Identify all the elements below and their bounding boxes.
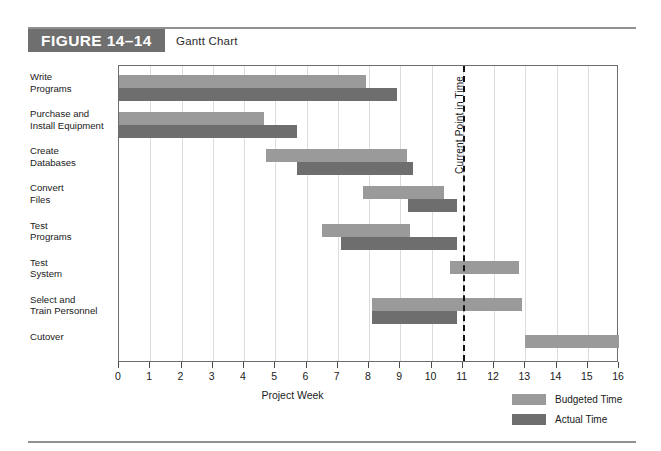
gantt-bar-actual: [297, 162, 413, 175]
x-tick-0: [118, 362, 119, 368]
x-tick-label-12: 12: [480, 370, 506, 382]
x-tick-label-3: 3: [199, 370, 225, 382]
gridline-week-3: [213, 66, 214, 361]
task-label-line: Cutover: [30, 331, 114, 343]
gantt-plot-area: Current Point in Time: [118, 65, 618, 362]
task-label-select-and-train-personnel: Select andTrain Personnel: [30, 294, 114, 317]
x-tick-label-13: 13: [511, 370, 537, 382]
task-label-line: Test: [30, 257, 114, 269]
task-label-create-databases: CreateDatabases: [30, 145, 114, 168]
task-label-line: Purchase and: [30, 108, 114, 120]
task-label-purchase-and-install-equipment: Purchase andInstall Equipment: [30, 108, 114, 131]
gantt-bar-actual: [372, 311, 456, 324]
task-label-line: Test: [30, 220, 114, 232]
task-label-cutover: Cutover: [30, 331, 114, 343]
gridline-week-12: [494, 66, 495, 361]
x-tick-16: [618, 362, 619, 368]
x-tick-14: [556, 362, 557, 368]
x-tick-label-0: 0: [105, 370, 131, 382]
x-tick-label-4: 4: [230, 370, 256, 382]
x-tick-label-10: 10: [418, 370, 444, 382]
gridline-week-6: [307, 66, 308, 361]
x-tick-label-7: 7: [324, 370, 350, 382]
task-label-line: Write: [30, 71, 114, 83]
task-label-line: Databases: [30, 157, 114, 169]
gantt-bar-budgeted: [363, 186, 444, 199]
figure-page: FIGURE 14–14 Gantt Chart Current Point i…: [0, 0, 661, 451]
gantt-bar-actual: [408, 199, 456, 212]
x-tick-4: [243, 362, 244, 368]
task-label-line: Train Personnel: [30, 305, 114, 317]
gridline-week-8: [369, 66, 370, 361]
current-point-in-time-label: Current Point in Time: [454, 76, 465, 174]
task-label-write-programs: WritePrograms: [30, 71, 114, 94]
legend-label-actual: Actual Time: [555, 414, 607, 425]
task-label-line: Select and: [30, 294, 114, 306]
x-tick-8: [368, 362, 369, 368]
x-tick-6: [306, 362, 307, 368]
gridline-week-15: [588, 66, 589, 361]
gridline-week-1: [150, 66, 151, 361]
gridline-week-4: [244, 66, 245, 361]
gantt-bar-budgeted: [119, 75, 366, 88]
x-tick-15: [587, 362, 588, 368]
x-tick-2: [181, 362, 182, 368]
x-tick-1: [149, 362, 150, 368]
gantt-bar-budgeted: [450, 261, 519, 274]
x-tick-label-1: 1: [136, 370, 162, 382]
x-tick-label-14: 14: [543, 370, 569, 382]
x-tick-9: [399, 362, 400, 368]
gridline-week-7: [338, 66, 339, 361]
gridline-week-13: [525, 66, 526, 361]
figure-number-badge: FIGURE 14–14: [28, 29, 165, 52]
task-label-line: Convert: [30, 182, 114, 194]
gantt-bar-actual: [119, 88, 397, 101]
chart-legend: Budgeted TimeActual Time: [512, 392, 622, 432]
x-axis-title-text: Project Week: [261, 389, 323, 401]
x-tick-label-6: 6: [293, 370, 319, 382]
x-tick-11: [462, 362, 463, 368]
task-label-line: Files: [30, 194, 114, 206]
x-tick-label-5: 5: [261, 370, 287, 382]
gantt-bar-budgeted: [266, 149, 407, 162]
x-tick-label-8: 8: [355, 370, 381, 382]
gantt-bar-budgeted: [525, 335, 619, 348]
x-tick-3: [212, 362, 213, 368]
task-label-line: Programs: [30, 231, 114, 243]
legend-item-budgeted: Budgeted Time: [512, 392, 622, 406]
gridline-week-14: [557, 66, 558, 361]
gantt-bar-actual: [119, 125, 297, 138]
x-tick-label-16: 16: [605, 370, 631, 382]
x-tick-12: [493, 362, 494, 368]
x-tick-label-2: 2: [168, 370, 194, 382]
x-tick-10: [431, 362, 432, 368]
x-tick-label-15: 15: [574, 370, 600, 382]
legend-swatch-budgeted: [512, 394, 546, 405]
gridline-week-5: [275, 66, 276, 361]
x-tick-13: [524, 362, 525, 368]
task-label-test-system: TestSystem: [30, 257, 114, 280]
gridline-week-2: [182, 66, 183, 361]
task-label-line: System: [30, 268, 114, 280]
gantt-bar-budgeted: [372, 298, 522, 311]
figure-title: Gantt Chart: [176, 35, 238, 47]
x-tick-7: [337, 362, 338, 368]
task-label-test-programs: TestPrograms: [30, 220, 114, 243]
footer-rule: [28, 441, 636, 443]
x-tick-label-11: 11: [449, 370, 475, 382]
gantt-bar-budgeted: [322, 224, 410, 237]
legend-swatch-actual: [512, 414, 546, 425]
task-label-line: Create: [30, 145, 114, 157]
gantt-bar-budgeted: [119, 112, 264, 125]
task-label-line: Programs: [30, 83, 114, 95]
x-tick-label-9: 9: [386, 370, 412, 382]
task-label-convert-files: ConvertFiles: [30, 182, 114, 205]
legend-label-budgeted: Budgeted Time: [555, 394, 622, 405]
x-tick-5: [274, 362, 275, 368]
gantt-bar-actual: [341, 237, 457, 250]
legend-item-actual: Actual Time: [512, 412, 622, 426]
task-label-line: Install Equipment: [30, 120, 114, 132]
